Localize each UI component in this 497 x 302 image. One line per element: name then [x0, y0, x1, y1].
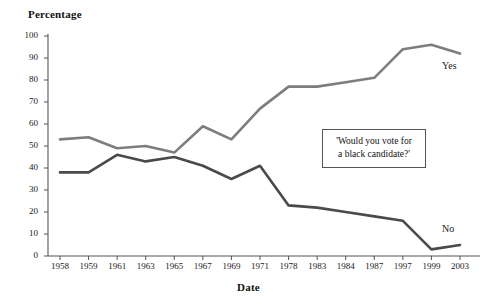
annotation-line-2: a black candidate?' [327, 148, 421, 161]
y-tick-label-100: 100 [12, 30, 38, 40]
y-tick-label-10: 10 [12, 228, 38, 238]
series-label-yes: Yes [442, 60, 457, 71]
x-axis-title: Date [0, 281, 497, 293]
y-tick-label-90: 90 [12, 52, 38, 62]
y-tick-label-0: 0 [12, 250, 38, 260]
poll-question-annotation: 'Would you vote for a black candidate?' [322, 129, 426, 168]
y-tick-label-30: 30 [12, 184, 38, 194]
y-tick-label-60: 60 [12, 118, 38, 128]
series-label-no: No [442, 223, 454, 234]
percentage-over-time-line-chart: Percentage 0102030405060708090100 195819… [0, 0, 497, 302]
y-axis-ticks [44, 36, 48, 256]
y-tick-label-20: 20 [12, 206, 38, 216]
annotation-line-1: 'Would you vote for [327, 135, 421, 148]
series-line-no [60, 155, 460, 250]
x-axis-ticks [60, 256, 460, 260]
y-tick-label-40: 40 [12, 162, 38, 172]
y-tick-label-50: 50 [12, 140, 38, 150]
x-tick-label-2003: 2003 [443, 261, 477, 271]
y-tick-label-70: 70 [12, 96, 38, 106]
y-tick-label-80: 80 [12, 74, 38, 84]
